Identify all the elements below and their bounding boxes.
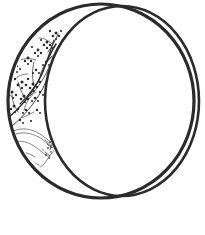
artwork-canvas: Line drawing of a crescent moon decorate… bbox=[0, 0, 205, 235]
crescent-moon-illustration bbox=[0, 0, 205, 235]
